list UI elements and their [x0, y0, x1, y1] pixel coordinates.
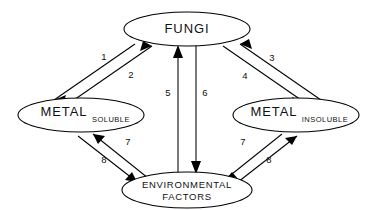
fungi-metal-environment-cycle-diagram: 1 2 3 4 5 6 [0, 0, 375, 210]
edge-7-right-group: 7 [227, 134, 282, 180]
edge-1-number: 1 [101, 51, 106, 62]
node-metal-soluble-label: METAL [41, 104, 88, 119]
edge-3-number: 3 [269, 52, 274, 63]
edge-3-group: 3 [240, 39, 321, 100]
node-fungi[interactable]: FUNGI [124, 12, 250, 46]
edge-4-line [223, 46, 304, 102]
edge-8-right-number: 8 [266, 154, 271, 165]
edge-2-line [71, 46, 152, 102]
edge-8-left-number: 8 [101, 154, 106, 165]
edge-1-group: 1 [54, 44, 135, 105]
edge-5-group: 5 [165, 45, 183, 174]
node-environmental-factors[interactable]: ENVIRONMENTAL FACTORS [122, 172, 252, 208]
node-fungi-label: FUNGI [165, 21, 210, 36]
node-environmental-factors-label-line1: ENVIRONMENTAL [142, 179, 232, 190]
edge-5-number: 5 [165, 87, 170, 98]
node-metal-insoluble-label: METAL [251, 104, 298, 119]
edge-2-group: 2 [71, 41, 152, 102]
node-metal-insoluble-subscript: INSOLUBLE [302, 115, 349, 124]
edge-3-line [240, 44, 321, 100]
node-metal-soluble[interactable]: METAL SOLUBLE [18, 98, 144, 132]
edge-4-number: 4 [242, 70, 247, 81]
edge-5-arrowhead-icon [173, 45, 183, 58]
edge-6-group: 6 [191, 45, 208, 174]
diagram-canvas: 1 2 3 4 5 6 [0, 0, 375, 210]
edge-7-right-line [227, 134, 282, 178]
edge-7-right-number: 7 [240, 136, 245, 147]
edge-7-left-number: 7 [125, 136, 130, 147]
node-metal-insoluble[interactable]: METAL INSOLUBLE [233, 98, 359, 132]
edge-8-right-group: 8 [238, 136, 297, 182]
edge-2-number: 2 [128, 69, 133, 80]
node-environmental-factors-label-line2: FACTORS [162, 191, 212, 202]
edge-6-number: 6 [202, 87, 207, 98]
edge-1-line [54, 44, 135, 100]
edge-3-arrowhead-icon [240, 39, 252, 49]
node-metal-soluble-subscript: SOLUBLE [92, 115, 130, 124]
